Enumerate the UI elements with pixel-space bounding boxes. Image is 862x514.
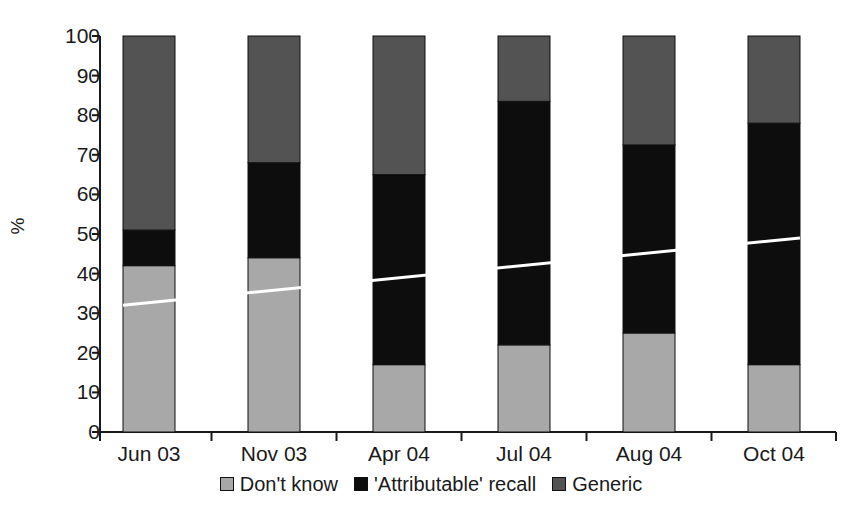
trend-line: [123, 238, 800, 305]
x-tick-label-aug-04: Aug 04: [579, 443, 719, 465]
stacked-bar-chart: % 0102030405060708090100 Jun 03Nov 03Apr…: [0, 0, 862, 514]
bar-segment-jul-04-generic: [498, 36, 550, 101]
legend-label: Generic: [572, 474, 642, 494]
bar-segment-aug-04-attributable-recall: [623, 145, 675, 333]
bar-segment-oct-04-attributable-recall: [748, 123, 800, 365]
bar-segment-jul-04-don-t-know: [498, 345, 550, 432]
bar-segment-apr-04-don-t-know: [373, 365, 425, 432]
bar-segment-jun-03-attributable-recall: [123, 230, 175, 266]
legend-item-attributable-recall[interactable]: 'Attributable' recall: [354, 474, 536, 494]
legend-item-generic[interactable]: Generic: [552, 474, 642, 494]
bar-segment-oct-04-generic: [748, 36, 800, 123]
plot-area: [0, 0, 862, 514]
bar-segment-jun-03-generic: [123, 36, 175, 230]
bar-segment-nov-03-don-t-know: [248, 258, 300, 432]
bar-segment-nov-03-attributable-recall: [248, 163, 300, 258]
bar-segment-jul-04-attributable-recall: [498, 101, 550, 345]
legend-swatch-icon: [354, 477, 368, 491]
chart-legend: Don't know'Attributable' recallGeneric: [0, 474, 862, 494]
legend-swatch-icon: [220, 477, 234, 491]
bar-segment-apr-04-attributable-recall: [373, 175, 425, 365]
x-tick-label-jul-04: Jul 04: [454, 443, 594, 465]
bar-segment-aug-04-don-t-know: [623, 333, 675, 432]
x-tick-label-oct-04: Oct 04: [704, 443, 844, 465]
bar-segment-nov-03-generic: [248, 36, 300, 163]
legend-label: 'Attributable' recall: [374, 474, 536, 494]
legend-swatch-icon: [552, 477, 566, 491]
bar-segment-oct-04-don-t-know: [748, 365, 800, 432]
x-tick-label-jun-03: Jun 03: [79, 443, 219, 465]
x-tick-label-nov-03: Nov 03: [204, 443, 344, 465]
legend-label: Don't know: [240, 474, 338, 494]
x-tick-label-apr-04: Apr 04: [329, 443, 469, 465]
legend-item-don-t-know[interactable]: Don't know: [220, 474, 338, 494]
bar-segment-aug-04-generic: [623, 36, 675, 145]
bar-segment-jun-03-don-t-know: [123, 266, 175, 432]
bar-segment-apr-04-generic: [373, 36, 425, 175]
